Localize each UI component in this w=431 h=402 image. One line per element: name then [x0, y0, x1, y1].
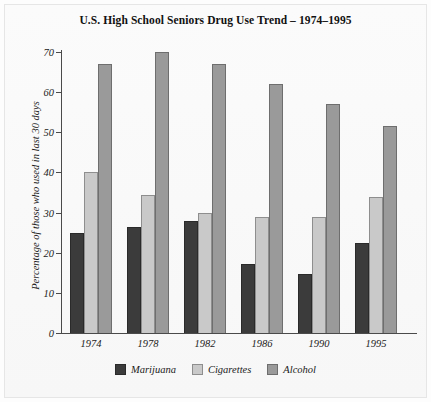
x-tick-label-1974: 1974	[61, 338, 121, 349]
bar-alcohol-1990	[326, 104, 340, 333]
bar-group	[241, 52, 283, 333]
bar-alcohol-1978	[155, 52, 169, 333]
y-tick-label: 30	[24, 207, 54, 218]
x-tick-label-1990: 1990	[289, 338, 349, 349]
legend-item-marijuana[interactable]: Marijuana	[115, 364, 176, 375]
legend-item-cigarettes[interactable]: Cigarettes	[192, 364, 251, 375]
y-tick-label: 60	[24, 87, 54, 98]
bar-cigarettes-1986	[255, 217, 269, 333]
bar-marijuana-1990	[298, 274, 312, 333]
y-tick-label: 0	[24, 328, 54, 339]
bar-group	[127, 52, 169, 333]
x-tick-label-1978: 1978	[118, 338, 178, 349]
x-tick-label-1995: 1995	[346, 338, 406, 349]
bar-group	[70, 52, 112, 333]
y-tick-label: 20	[24, 247, 54, 258]
bar-group	[184, 52, 226, 333]
y-tick-label: 50	[24, 127, 54, 138]
x-tick-label-1982: 1982	[175, 338, 235, 349]
bar-marijuana-1978	[127, 227, 141, 333]
legend-swatch-icon	[192, 364, 203, 375]
legend-label: Marijuana	[131, 364, 176, 375]
y-axis-ticks: 010203040506070	[0, 0, 54, 402]
y-tick-label: 40	[24, 167, 54, 178]
bar-cigarettes-1990	[312, 217, 326, 333]
x-tick-label-1986: 1986	[232, 338, 292, 349]
bar-cigarettes-1982	[198, 213, 212, 333]
chart-legend: MarijuanaCigarettesAlcohol	[0, 364, 431, 375]
bar-cigarettes-1995	[369, 197, 383, 333]
bar-cigarettes-1974	[84, 172, 98, 333]
legend-swatch-icon	[267, 364, 278, 375]
bar-marijuana-1995	[355, 243, 369, 333]
chart-figure: U.S. High School Seniors Drug Use Trend …	[0, 0, 431, 402]
bar-marijuana-1974	[70, 233, 84, 333]
y-tick-label: 10	[24, 287, 54, 298]
chart-title: U.S. High School Seniors Drug Use Trend …	[0, 14, 431, 26]
bar-marijuana-1986	[241, 264, 255, 333]
legend-swatch-icon	[115, 364, 126, 375]
bar-alcohol-1982	[212, 64, 226, 333]
x-axis-line	[61, 333, 417, 334]
legend-label: Alcohol	[283, 364, 316, 375]
legend-label: Cigarettes	[208, 364, 251, 375]
bar-alcohol-1974	[98, 64, 112, 333]
bar-group	[355, 52, 397, 333]
y-tick-label: 70	[24, 47, 54, 58]
bar-marijuana-1982	[184, 221, 198, 333]
bar-alcohol-1995	[383, 126, 397, 333]
bar-alcohol-1986	[269, 84, 283, 333]
bar-cigarettes-1978	[141, 195, 155, 333]
bar-group	[298, 52, 340, 333]
legend-item-alcohol[interactable]: Alcohol	[267, 364, 316, 375]
